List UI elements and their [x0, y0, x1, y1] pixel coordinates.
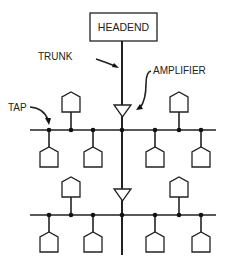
house-icon — [84, 147, 102, 167]
house-icon — [170, 177, 188, 197]
house-icon — [84, 232, 102, 252]
tap-label: TAP — [8, 102, 27, 113]
headend-label: HEADEND — [98, 21, 150, 33]
splitter-icon — [120, 213, 125, 218]
tap-icon — [199, 213, 204, 218]
network-diagram: HEADEND TRUNK AMPLIFIER TAP — [0, 0, 231, 264]
house-icon — [40, 232, 58, 252]
tap-icon — [177, 128, 182, 133]
headend-node: HEADEND — [90, 13, 157, 41]
house-icon — [146, 147, 164, 167]
tap-icon — [199, 128, 204, 133]
tap-icon — [153, 128, 158, 133]
amplifier-2-icon — [114, 189, 131, 201]
splitter-icon — [120, 128, 125, 133]
trunk-arrowhead-icon — [112, 63, 119, 68]
house-icon — [146, 232, 164, 252]
tap-icon — [69, 128, 74, 133]
house-icon — [40, 147, 58, 167]
tap-icon — [47, 128, 52, 133]
amplifier-label: AMPLIFIER — [153, 65, 206, 76]
house-icon — [170, 92, 188, 112]
tap-icon — [91, 213, 96, 218]
trunk-pointer-arrow — [96, 59, 115, 66]
house-icon — [192, 232, 210, 252]
house-icon — [62, 92, 80, 112]
amplifier-1-icon — [114, 105, 131, 117]
tap-icon — [91, 128, 96, 133]
tap-arrowhead-icon — [45, 118, 51, 125]
house-icon — [192, 147, 210, 167]
tap-icon — [153, 213, 158, 218]
tap-icon — [69, 213, 74, 218]
house-icon — [62, 177, 80, 197]
amplifier-pointer-arrow — [140, 71, 151, 108]
tap-icon — [47, 213, 52, 218]
tap-icon — [177, 213, 182, 218]
trunk-label: TRUNK — [38, 51, 73, 62]
